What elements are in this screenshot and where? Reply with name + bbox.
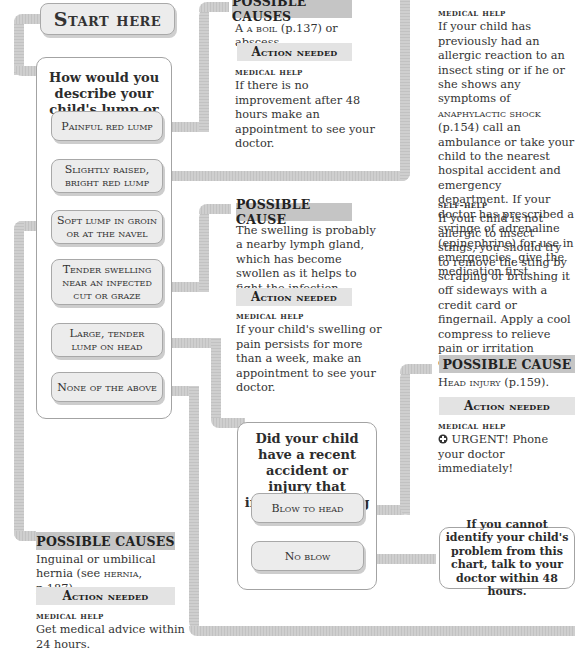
option-tender-swelling-infected-cut[interactable]: Tender swelling near an infected cut or … — [51, 259, 163, 305]
connector — [199, 210, 209, 292]
option-large-tender-lump-head[interactable]: Large, tender lump on head — [51, 323, 163, 357]
connector — [400, 364, 432, 374]
start-here-box[interactable]: Start here — [40, 3, 175, 35]
lymph-action-needed-header: Action needed — [236, 288, 352, 306]
lymph-possible-cause-header: POSSIBLE CAUSE — [236, 203, 352, 221]
lymph-medical-help: medical help If your child's swelling or… — [236, 309, 388, 395]
boil-action-needed-header: Action needed — [237, 43, 352, 61]
anaphylactic-shock-link[interactable]: anaphylactic shock — [438, 107, 541, 120]
hernia-link[interactable]: hernia — [104, 567, 139, 580]
final-advice-box: If you cannot identify your child's prob… — [439, 527, 575, 589]
option-soft-lump-groin-navel[interactable]: Soft lump in groin or at the navel — [51, 210, 163, 244]
lymph-cause-text: The swelling is probably a nearby lymph … — [236, 224, 386, 296]
boil-link[interactable]: a boil — [247, 22, 277, 35]
connector — [400, 370, 410, 515]
hernia-possible-causes-header: POSSIBLE CAUSES — [36, 532, 175, 550]
head-medical-help: medical help URGENT! Phone your doctor i… — [438, 419, 575, 477]
connector — [199, 204, 231, 214]
connector — [211, 338, 221, 426]
connector — [199, 2, 229, 12]
option-blow-to-head[interactable]: Blow to head — [251, 493, 364, 523]
head-action-needed-header: Action needed — [439, 397, 575, 415]
head-possible-cause-header: POSSIBLE CAUSE — [439, 355, 575, 373]
boil-possible-causes-header: POSSIBLE CAUSES — [232, 0, 352, 18]
connector — [167, 171, 410, 181]
urgent-cross-icon — [438, 433, 452, 446]
connector — [14, 14, 40, 24]
head-injury-link[interactable]: Head injury — [438, 376, 501, 389]
connector — [368, 554, 436, 564]
sting-self-help: self-help If your child is not allergic … — [438, 198, 575, 371]
head-cause-text: Head injury (p.159). — [438, 376, 575, 390]
connector — [14, 221, 24, 541]
option-slightly-raised-red-lump[interactable]: Slightly raised, bright red lump — [51, 159, 163, 193]
connector — [14, 531, 36, 541]
connector — [189, 626, 575, 636]
option-no-blow[interactable]: No blow — [251, 541, 364, 571]
connector — [189, 386, 199, 630]
option-none-of-the-above[interactable]: None of the above — [51, 372, 163, 402]
connector — [400, 0, 410, 181]
connector — [199, 8, 209, 132]
boil-medical-help: medical help If there is no improvement … — [235, 65, 385, 151]
option-painful-red-lump[interactable]: Painful red lump — [51, 111, 163, 141]
hernia-medical-help: medical help Get medical advice within 2… — [36, 609, 186, 649]
hernia-action-needed-header: Action needed — [36, 587, 175, 605]
